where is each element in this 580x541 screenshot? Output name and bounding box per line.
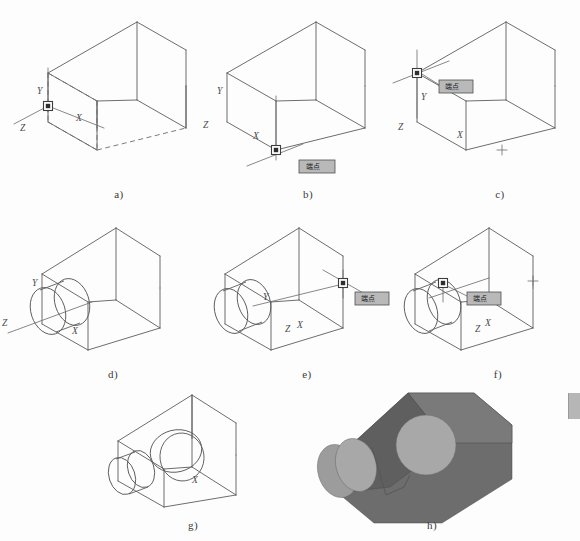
panel-caption-g: g) [173,519,213,531]
panel-caption-d: d) [93,368,133,380]
axis-label-x: X [75,113,83,123]
wedge-wireframe-f [415,228,533,350]
axis-label-x: X [71,326,79,336]
axis-label-x: X [296,320,304,330]
wedge-wireframe-c [417,22,555,150]
shaded-solid-h [311,393,512,523]
panel-caption-c: c) [480,188,520,200]
panel-f: Z X 端点 [385,222,580,387]
panel-caption-a: a) [99,188,139,200]
ucs-icon-b: Y X Z [203,86,303,166]
panel-h [330,383,530,523]
axis-label-y: Y [217,86,224,96]
snap-cross-f [528,276,538,286]
ucs-icon-c: Y X Z [393,50,464,140]
axis-label-y: Y [37,86,44,96]
cylinder-left-face-g [104,447,159,498]
ucs-icon-e: Y Z X [253,270,365,334]
axis-label-z: Z [20,123,26,133]
snap-tooltip-e: 端点 [355,292,389,305]
panel-b: Y X Z 端点 [205,8,395,198]
axis-label-z: Z [2,318,8,328]
panel-d: Y X Z [0,222,205,387]
wedge-wireframe-a [48,22,186,150]
figure-root: Y X Z a) [0,0,580,541]
panel-c: Y X Z 端点 [395,8,580,198]
axis-label-y: Y [421,92,428,102]
tooltip-label: 端点 [473,294,487,303]
panel-caption-f: f) [478,368,518,380]
panel-e: Y Z X 端点 [195,222,395,387]
tooltip-label: 端点 [361,294,375,303]
axis-label-x: X [191,475,199,485]
panel-caption-b: b) [288,188,328,200]
panel-g: X [100,383,305,523]
tooltip-label: 端点 [306,162,320,171]
ucs-icon-a: Y X Z [14,68,104,133]
panel-a: Y X Z [0,8,215,193]
page-edge-marker [568,393,580,419]
snap-tooltip-b: 端点 [299,160,335,173]
snap-tooltip-c: 端点 [422,74,473,93]
axis-label-z: Z [398,122,404,132]
axis-label-z: Z [285,324,291,334]
tooltip-label: 端点 [445,82,459,91]
panel-caption-h: h) [412,519,452,531]
axis-label-x: X [252,131,260,141]
snap-cross-c [497,145,507,155]
axis-label-x: X [456,130,464,140]
wedge-wireframe-b [227,22,365,150]
axis-label-y: Y [32,278,39,288]
axis-label-z: Z [203,120,209,130]
axis-label-z: Z [475,324,481,334]
panel-caption-e: e) [287,368,327,380]
axis-label-x: X [484,318,492,328]
wedge-wireframe-e [225,228,343,350]
